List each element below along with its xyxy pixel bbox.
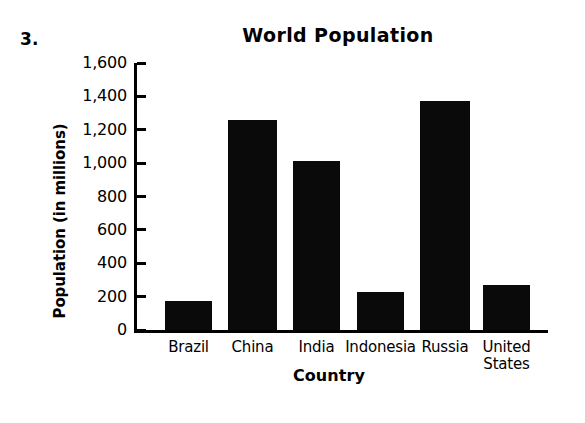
y-tick-mark bbox=[137, 162, 146, 165]
y-tick-label: 1,400 bbox=[82, 88, 127, 104]
y-tick-mark bbox=[137, 195, 146, 198]
y-axis-title: Population (in millions) bbox=[51, 106, 69, 336]
bar bbox=[293, 161, 340, 330]
y-tick-label: 800 bbox=[97, 189, 127, 205]
x-axis-title: Country bbox=[234, 366, 424, 385]
bar bbox=[420, 101, 470, 330]
bar-chart-figure: 3. World Population Population (in milli… bbox=[0, 0, 585, 423]
y-tick-label: 1,600 bbox=[82, 55, 127, 71]
bar bbox=[357, 292, 404, 330]
x-tick-label: Brazil bbox=[152, 339, 226, 356]
y-tick-label: 400 bbox=[97, 255, 127, 271]
y-tick-label: 200 bbox=[97, 289, 127, 305]
y-tick-mark bbox=[137, 62, 146, 65]
plot-area: 02004006008001,0001,2001,4001,600 Brazil… bbox=[134, 63, 548, 330]
y-tick-label: 1,200 bbox=[82, 122, 127, 138]
y-tick-mark bbox=[137, 95, 146, 98]
x-tick-label: India bbox=[280, 339, 354, 356]
x-tick-label: China bbox=[216, 339, 290, 356]
y-tick-mark bbox=[137, 262, 146, 265]
y-tick-mark bbox=[137, 228, 146, 231]
problem-number: 3. bbox=[20, 31, 39, 48]
bar bbox=[483, 285, 530, 330]
y-tick-label: 1,000 bbox=[82, 155, 127, 171]
y-tick-label: 0 bbox=[117, 322, 127, 338]
chart-title: World Population bbox=[138, 26, 538, 46]
y-tick-mark bbox=[137, 295, 146, 298]
x-axis-line bbox=[134, 330, 548, 333]
bar bbox=[228, 120, 277, 330]
x-tick-label: United States bbox=[470, 339, 544, 373]
y-tick-mark bbox=[137, 128, 146, 131]
bar bbox=[165, 301, 212, 330]
x-tick-label: Indonesia bbox=[344, 339, 418, 356]
y-tick-mark bbox=[137, 329, 146, 332]
y-tick-label: 600 bbox=[97, 222, 127, 238]
